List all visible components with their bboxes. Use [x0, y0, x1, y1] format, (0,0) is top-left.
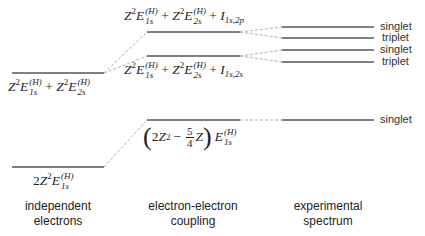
caption-independent-electrons: independent electrons [8, 199, 108, 229]
label-independent-excited: Z2E(H)1s + Z2E(H)2s [8, 78, 90, 97]
state-label-triplet: triplet [382, 56, 409, 67]
state-label-triplet: triplet [382, 32, 409, 43]
left-paren: ( [143, 124, 152, 150]
right-paren: ) [203, 124, 212, 150]
sub-1s: 1s [224, 138, 237, 147]
caption-line: spectrum [278, 214, 378, 229]
sub-sup: (H)2s [193, 61, 206, 80]
sub-2s: 2s [77, 88, 90, 97]
sup-h: (H) [193, 61, 206, 70]
coef-2: 2 [152, 130, 159, 144]
sub-sup: (H)2s [193, 7, 206, 26]
sub-sup: (H)1s [61, 172, 74, 191]
symbol-z: Z [8, 79, 16, 94]
symbol-e: E [215, 128, 223, 143]
symbol-z: Z [172, 8, 180, 23]
caption-line: experimental [278, 199, 378, 214]
caption-line: independent [8, 199, 108, 214]
plus: + [161, 8, 169, 23]
sub-1s: 1s [61, 182, 74, 191]
plus: + [161, 62, 169, 77]
symbol-e: E [136, 8, 144, 23]
sub-sup: (H)2s [77, 78, 90, 97]
symbol-e: E [20, 79, 28, 94]
sup-h: (H) [61, 172, 74, 181]
sup-h: (H) [77, 78, 90, 87]
symbol-z: Z [56, 79, 64, 94]
symbol-z: Z [172, 62, 180, 77]
sub-2s: 2s [193, 71, 206, 80]
sup-h: (H) [145, 61, 158, 70]
sub-sup: (H)1s [224, 128, 237, 147]
caption-line: electrons [8, 214, 108, 229]
coef-2: 2 [33, 173, 40, 188]
sup-h: (H) [29, 78, 42, 87]
caption-line: electron-electron [143, 199, 243, 214]
caption-line: coupling [143, 214, 243, 229]
state-label-singlet: singlet [380, 114, 412, 125]
plus: + [209, 8, 217, 23]
label-independent-ground: 2Z2E(H)1s [33, 172, 74, 191]
caption-experimental-spectrum: experimental spectrum [278, 199, 378, 229]
exp: 2 [166, 133, 171, 142]
sub-sup: (H)1s [145, 61, 158, 80]
sub-1s: 1s [29, 88, 42, 97]
symbol-e: E [136, 62, 144, 77]
minus: − [173, 130, 181, 144]
label-coupling-ground: ( 2Z2 − 54 Z ) E(H)1s [143, 124, 237, 150]
sup-h: (H) [145, 7, 158, 16]
symbol-z: Z [158, 130, 166, 144]
sub-1s: 1s [145, 17, 158, 26]
symbol-e: E [184, 62, 192, 77]
sup-h: (H) [224, 128, 237, 137]
symbol-z: Z [124, 8, 132, 23]
symbol-e: E [68, 79, 76, 94]
symbol-z: Z [196, 130, 204, 144]
caption-electron-coupling: electron-electron coupling [143, 199, 243, 229]
sub-sup: (H)1s [29, 78, 42, 97]
label-coupling-2s: Z2E(H)1s + Z2E(H)2s + I1s,2s [124, 61, 243, 80]
sup-h: (H) [193, 7, 206, 16]
plus: + [209, 62, 217, 77]
fraction-5-4: 54 [186, 126, 194, 149]
sub-1s2s: 1s,2s [225, 69, 243, 79]
symbol-e: E [52, 173, 60, 188]
sub-1s: 1s [145, 71, 158, 80]
sub-1s2p: 1s,2p [225, 15, 244, 25]
numerator: 5 [186, 126, 194, 138]
symbol-z: Z [124, 62, 132, 77]
symbol-e: E [184, 8, 192, 23]
label-coupling-2p: Z2E(H)1s + Z2E(H)2s + I1s,2p [124, 7, 244, 26]
plus: + [45, 79, 53, 94]
sub-2s: 2s [193, 17, 206, 26]
sub-sup: (H)1s [145, 7, 158, 26]
state-label-singlet: singlet [380, 44, 412, 55]
denominator: 4 [187, 138, 193, 149]
